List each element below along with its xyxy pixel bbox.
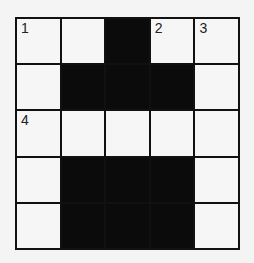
black-square [106, 19, 149, 63]
crossword-cell[interactable]: 1 [17, 19, 60, 63]
crossword-cell[interactable] [17, 158, 60, 202]
crossword-cell[interactable] [62, 111, 105, 155]
crossword-cell[interactable]: 4 [17, 111, 60, 155]
black-square [151, 65, 194, 109]
clue-number: 1 [21, 21, 29, 35]
black-square [106, 204, 149, 248]
crossword-cell[interactable] [17, 204, 60, 248]
crossword-cell[interactable] [195, 158, 238, 202]
crossword-cell[interactable] [195, 65, 238, 109]
crossword-grid: 1234 [15, 17, 240, 250]
crossword-cell[interactable] [62, 19, 105, 63]
clue-number: 3 [199, 21, 207, 35]
black-square [62, 204, 105, 248]
crossword-cell[interactable] [195, 204, 238, 248]
crossword-cell[interactable] [151, 111, 194, 155]
clue-number: 4 [21, 113, 29, 127]
crossword-cell[interactable]: 3 [195, 19, 238, 63]
crossword-cell[interactable]: 2 [151, 19, 194, 63]
crossword-cell[interactable] [17, 65, 60, 109]
black-square [106, 65, 149, 109]
black-square [62, 65, 105, 109]
black-square [106, 158, 149, 202]
clue-number: 2 [155, 21, 163, 35]
crossword-cell[interactable] [195, 111, 238, 155]
black-square [62, 158, 105, 202]
crossword-cell[interactable] [106, 111, 149, 155]
black-square [151, 158, 194, 202]
black-square [151, 204, 194, 248]
